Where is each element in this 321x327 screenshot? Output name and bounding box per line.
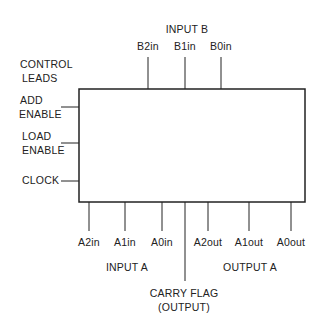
pin-b0in-label: B0in bbox=[210, 40, 232, 53]
carry-flag-label-line2: (OUTPUT) bbox=[158, 301, 210, 314]
pin-a1in-label: A1in bbox=[114, 236, 136, 249]
carry-flag-label-line1: CARRY FLAG bbox=[150, 287, 219, 300]
pin-b2in-label: B2in bbox=[137, 40, 159, 53]
pin-a0out-label: A0out bbox=[277, 236, 305, 249]
load-enable-label-line2: ENABLE bbox=[22, 144, 65, 157]
diagram-lines bbox=[0, 0, 321, 327]
input-b-title: INPUT B bbox=[166, 23, 209, 36]
pin-a1out-label: A1out bbox=[235, 236, 263, 249]
pin-a0in-label: A0in bbox=[151, 236, 173, 249]
add-enable-label-line2: ENABLE bbox=[19, 108, 62, 121]
register-block bbox=[79, 89, 305, 202]
clock-label: CLOCK bbox=[22, 174, 59, 187]
pin-a2in-label: A2in bbox=[78, 236, 100, 249]
output-a-title: OUTPUT A bbox=[223, 261, 277, 274]
load-enable-label-line1: LOAD bbox=[22, 130, 51, 143]
control-leads-title-line2: LEADS bbox=[22, 72, 57, 85]
pin-b1in-label: B1in bbox=[174, 40, 196, 53]
add-enable-label-line1: ADD bbox=[20, 94, 43, 107]
control-leads-title-line1: CONTROL bbox=[20, 58, 73, 71]
pin-a2out-label: A2out bbox=[194, 236, 222, 249]
input-a-title: INPUT A bbox=[106, 261, 148, 274]
